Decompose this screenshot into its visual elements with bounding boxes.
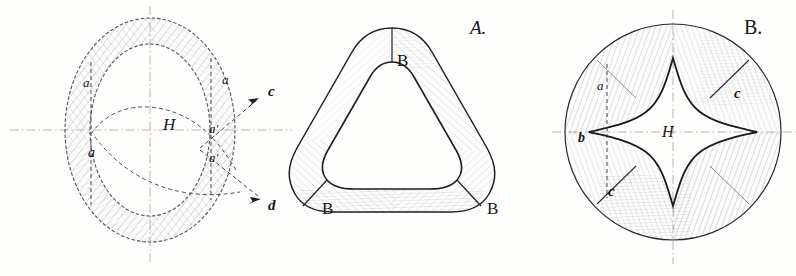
- label-a-prime-upper-right: a': [209, 121, 219, 136]
- figure-caption-B: B.: [744, 16, 762, 38]
- label-a-prime-lower-right: a': [209, 150, 219, 165]
- label-c-upper-right: c: [734, 85, 741, 101]
- label-b-top: B: [397, 51, 408, 70]
- label-b-left: b: [578, 130, 585, 145]
- figure-caption-A: A.: [468, 17, 486, 38]
- drawing-plate: a a a a' a' H c d B B B A.: [0, 0, 796, 276]
- label-d-arrow: d: [268, 197, 276, 213]
- label-a-left-upper: a: [597, 78, 604, 93]
- label-H-center: H: [162, 115, 177, 134]
- technical-drawing-canvas: a a a a' a' H c d B B B A.: [0, 0, 796, 276]
- label-b-bottom-right: B: [487, 199, 498, 218]
- label-a-upper-right: a: [222, 72, 229, 87]
- label-H-center-right: H: [661, 123, 675, 140]
- label-c-arrow: c: [268, 83, 275, 99]
- label-b-bottom-left: B: [322, 199, 333, 218]
- label-a-upper-left: a: [83, 75, 90, 90]
- label-a-lower-left: a: [88, 145, 95, 160]
- label-c-lower-left: c: [608, 183, 615, 199]
